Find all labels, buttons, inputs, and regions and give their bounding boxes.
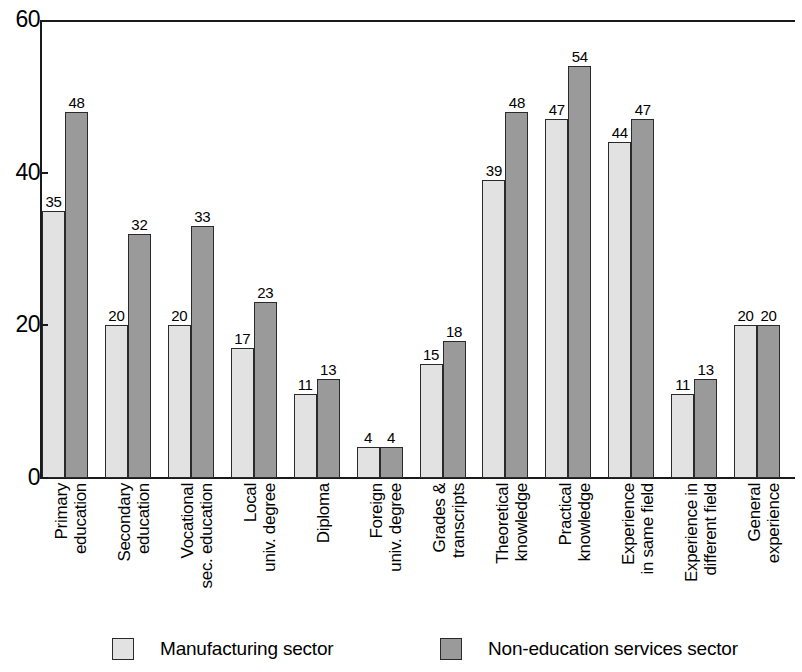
x-axis-label-line: transcripts (449, 483, 468, 623)
bar-value-label: 13 (320, 362, 336, 377)
bar-value-label: 20 (738, 308, 754, 323)
bars-layer: 3548203220331723111344151839484754444711… (40, 20, 795, 478)
bar-value-label: 48 (68, 95, 84, 110)
x-axis-label-line: General (745, 483, 764, 623)
bar-value-label: 23 (257, 285, 273, 300)
y-tick-mark (40, 324, 48, 326)
x-axis-label: Primaryeducation (40, 483, 103, 623)
legend-swatch-icon (440, 638, 462, 660)
bar-value-label: 54 (572, 49, 588, 64)
x-axis-label-text: Experiencein same field (619, 483, 657, 623)
x-axis-labels: PrimaryeducationSecondaryeducationVocati… (40, 483, 795, 623)
x-axis-label: Secondaryeducation (103, 483, 166, 623)
x-axis-label-line: univ. degree (386, 483, 405, 623)
x-axis-label-text: Primaryeducation (52, 483, 90, 623)
y-tick-label: 60 (6, 8, 40, 31)
bar-value-label: 15 (423, 347, 439, 362)
x-axis-label-text: Generalexperience (745, 483, 783, 623)
bar-value-label: 33 (194, 209, 210, 224)
bar: 20 (105, 325, 128, 478)
x-axis-label-line: education (134, 483, 153, 623)
y-tick-label: 0 (6, 466, 40, 489)
bar: 54 (568, 66, 591, 478)
x-axis-label: Experience indifferent field (669, 483, 732, 623)
bar: 48 (65, 112, 88, 478)
bar: 17 (231, 348, 254, 478)
legend-item-label: Manufacturing sector (160, 638, 333, 660)
bar: 47 (545, 119, 568, 478)
bar-group: 4754 (543, 20, 606, 478)
x-axis-label-text: Grades &transcripts (430, 483, 468, 623)
bar: 4 (380, 447, 403, 478)
bar: 11 (294, 394, 317, 478)
bar-value-label: 4 (364, 430, 372, 445)
bar-group: 3948 (480, 20, 543, 478)
x-axis-label-line: different field (701, 483, 720, 623)
x-axis-label-line: Foreign (367, 483, 386, 623)
x-axis-label-line: experience (764, 483, 783, 623)
x-axis-label-text: Localuniv. degree (241, 483, 279, 623)
x-axis-label: Foreignuniv. degree (355, 483, 418, 623)
x-axis-label-line: Secondary (115, 483, 134, 623)
bar-value-label: 44 (612, 125, 628, 140)
bar: 39 (482, 180, 505, 478)
x-axis-label-line: sec. education (197, 483, 216, 623)
bar-value-label: 35 (45, 194, 61, 209)
bar-value-label: 39 (486, 163, 502, 178)
bar-value-label: 20 (761, 308, 777, 323)
bar-group: 1723 (229, 20, 292, 478)
y-tick-mark (40, 477, 48, 479)
x-axis-label-line: education (71, 483, 90, 623)
y-tick-label: 40 (6, 161, 40, 184)
x-axis-label-text: Foreignuniv. degree (367, 483, 405, 623)
x-axis-label-text: Secondaryeducation (115, 483, 153, 623)
x-axis-label-line: Local (241, 483, 260, 623)
bar: 32 (128, 234, 151, 478)
bar-group: 3548 (40, 20, 103, 478)
x-axis-label-line: knowledge (575, 483, 594, 623)
x-axis-label-line: univ. degree (260, 483, 279, 623)
y-tick-label: 20 (6, 313, 40, 336)
bar: 20 (734, 325, 757, 478)
x-axis-label-text: Diploma (314, 483, 333, 623)
bar-group: 2033 (166, 20, 229, 478)
x-axis-label: Practicalknowledge (543, 483, 606, 623)
bar: 11 (671, 394, 694, 478)
bar-group: 1113 (292, 20, 355, 478)
bar: 20 (757, 325, 780, 478)
x-axis-label-text: Practicalknowledge (556, 483, 594, 623)
x-axis-label: Grades &transcripts (418, 483, 481, 623)
bar-value-label: 47 (635, 102, 651, 117)
bar-value-label: 20 (108, 308, 124, 323)
bar-group: 4447 (606, 20, 669, 478)
bar: 23 (254, 302, 277, 478)
x-axis-label: Diploma (292, 483, 355, 623)
x-axis-label: Vocationalsec. education (166, 483, 229, 623)
y-tick-mark (40, 172, 48, 174)
bar: 44 (608, 142, 631, 478)
bar: 33 (191, 226, 214, 478)
legend-swatch-icon (112, 638, 134, 660)
x-axis-label-line: Experience (619, 483, 638, 623)
bar: 20 (168, 325, 191, 478)
bar-group: 1518 (418, 20, 481, 478)
x-axis-label-line: Diploma (314, 483, 333, 623)
bar-value-label: 48 (509, 95, 525, 110)
legend-item-label: Non-education services sector (488, 638, 738, 660)
bar-value-label: 47 (549, 102, 565, 117)
bar-group: 1113 (669, 20, 732, 478)
legend-item-non-education-services: Non-education services sector (440, 634, 738, 664)
bar-value-label: 17 (234, 331, 250, 346)
x-axis-label: Localuniv. degree (229, 483, 292, 623)
bar-chart: 0204060 35482032203317231113441518394847… (0, 0, 802, 672)
x-axis-label-line: knowledge (512, 483, 531, 623)
x-axis-label-line: Theoretical (493, 483, 512, 623)
bar: 48 (505, 112, 528, 478)
bar: 4 (357, 447, 380, 478)
x-axis-label-text: Vocationalsec. education (178, 483, 216, 623)
bar-value-label: 11 (675, 377, 690, 392)
y-axis: 0204060 (0, 0, 40, 672)
bar: 35 (42, 211, 65, 478)
bar-value-label: 18 (446, 324, 462, 339)
x-axis-label: Theoreticalknowledge (480, 483, 543, 623)
